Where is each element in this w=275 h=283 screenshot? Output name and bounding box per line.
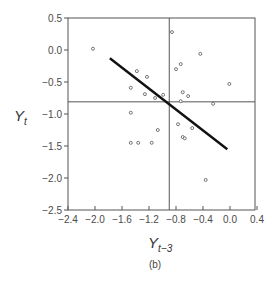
x-axis-ticks: −2.4−2.0−1.6−1.2−0.8−0.40.00.4 bbox=[58, 206, 264, 225]
data-point bbox=[212, 102, 215, 105]
y-tick-label: −1.5 bbox=[42, 141, 62, 152]
x-axis-title: Yt−3 bbox=[148, 234, 173, 254]
plot-border bbox=[68, 18, 255, 210]
y-axis-title: Yt bbox=[14, 107, 28, 127]
data-point bbox=[199, 52, 202, 55]
data-points bbox=[91, 31, 230, 182]
data-point bbox=[135, 70, 138, 73]
y-tick-label: −2.5 bbox=[42, 205, 62, 216]
y-tick-label: −0.5 bbox=[42, 77, 62, 88]
scatter-chart: −2.4−2.0−1.6−1.2−0.8−0.40.00.4 0.50.0−0.… bbox=[0, 0, 275, 283]
reference-lines bbox=[68, 18, 255, 210]
data-point bbox=[154, 97, 157, 100]
y-tick-label: −2.0 bbox=[42, 173, 62, 184]
data-point bbox=[187, 95, 190, 98]
data-point bbox=[183, 137, 186, 140]
data-point bbox=[162, 93, 165, 96]
fit-line bbox=[110, 58, 227, 149]
x-tick-label: −1.2 bbox=[139, 214, 159, 225]
data-point bbox=[179, 100, 182, 103]
data-point bbox=[91, 47, 94, 50]
data-point bbox=[191, 127, 194, 130]
data-point bbox=[137, 141, 140, 144]
data-point bbox=[175, 68, 178, 71]
x-tick-label: −2.4 bbox=[58, 214, 78, 225]
y-axis-ticks: 0.50.0−0.5−1.0−1.5−2.0−2.5 bbox=[42, 13, 68, 216]
data-point bbox=[150, 141, 153, 144]
data-point bbox=[179, 63, 182, 66]
data-point bbox=[177, 123, 180, 126]
data-point bbox=[156, 129, 159, 132]
y-tick-label: −1.0 bbox=[42, 109, 62, 120]
data-point bbox=[204, 178, 207, 181]
x-tick-label: −0.8 bbox=[166, 214, 186, 225]
x-tick-label: −0.4 bbox=[193, 214, 213, 225]
data-point bbox=[145, 75, 148, 78]
regression-line bbox=[110, 58, 227, 149]
data-point bbox=[181, 91, 184, 94]
figure-caption: (b) bbox=[149, 259, 161, 270]
data-point bbox=[170, 31, 173, 34]
x-tick-label: 0.0 bbox=[223, 214, 237, 225]
x-tick-label: −2.0 bbox=[85, 214, 105, 225]
plot-frame bbox=[68, 18, 255, 210]
data-point bbox=[143, 93, 146, 96]
data-point bbox=[228, 82, 231, 85]
y-tick-label: 0.0 bbox=[48, 45, 62, 56]
data-point bbox=[129, 141, 132, 144]
x-tick-label: −1.6 bbox=[112, 214, 132, 225]
y-tick-label: 0.5 bbox=[48, 13, 62, 24]
data-point bbox=[129, 111, 132, 114]
x-tick-label: 0.4 bbox=[250, 214, 264, 225]
data-point bbox=[129, 86, 132, 89]
